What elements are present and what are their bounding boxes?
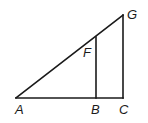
label-c: C: [119, 102, 129, 117]
label-a: A: [14, 102, 24, 117]
geometry-diagram: G F A B C: [0, 0, 148, 123]
segment-ag: [16, 15, 123, 98]
label-b: B: [91, 102, 100, 117]
label-f: F: [83, 45, 92, 60]
label-g: G: [127, 7, 137, 22]
